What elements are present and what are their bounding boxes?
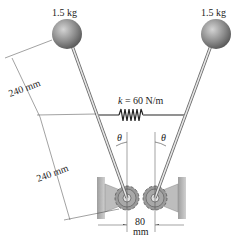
lower-length-label: 240 mm — [35, 162, 70, 184]
left-mass-label: 1.5 kg — [52, 7, 77, 18]
linkage-diagram: 1.5 kg 1.5 kg k = 60 N/m θ θ 240 mm 240 … — [0, 0, 236, 242]
right-mass-label: 1.5 kg — [201, 7, 226, 18]
spring-value: = 60 N/m — [122, 95, 163, 106]
right-rod — [155, 40, 213, 198]
right-angle-label: θ — [161, 132, 166, 143]
left-angle-label: θ — [117, 132, 122, 143]
spring — [98, 109, 184, 121]
left-rod — [70, 40, 127, 198]
upper-length-label: 240 mm — [7, 77, 42, 99]
gear-spacing-unit: mm — [133, 226, 149, 237]
spring-constant-label: k = 60 N/m — [118, 95, 164, 106]
right-mass — [201, 19, 231, 49]
left-mass — [52, 19, 82, 49]
